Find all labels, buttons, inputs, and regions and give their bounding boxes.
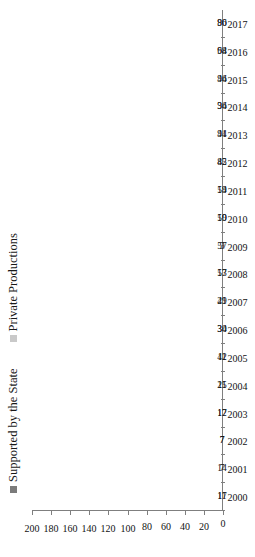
value-axis-labels: 020406080100120140160180200 xyxy=(32,519,223,557)
value-tick xyxy=(32,511,33,515)
category-label: 2013 xyxy=(225,121,253,149)
category-label: 2009 xyxy=(225,233,253,261)
category-label-text: 2011 xyxy=(228,185,248,196)
bar-slot: 1125 xyxy=(32,372,222,400)
value-tick-label: 40 xyxy=(180,521,190,532)
bar-slot: 1459 xyxy=(32,177,222,205)
legend-swatch-state xyxy=(10,486,17,493)
category-label: 2007 xyxy=(225,288,253,316)
category-tick xyxy=(221,287,225,288)
bar-slot: 77 xyxy=(32,428,222,456)
category-label-text: 2013 xyxy=(228,130,248,141)
category-tick xyxy=(221,204,225,205)
value-tick xyxy=(204,511,205,515)
value-tick xyxy=(108,511,109,515)
bar-slot: 2941 xyxy=(32,288,222,316)
legend-item-state: Supported by the State xyxy=(6,368,21,493)
category-label: 2006 xyxy=(225,316,253,344)
category-label: 2011 xyxy=(225,177,253,205)
category-tick xyxy=(221,371,225,372)
bar-group: 1117147771217112511423034294113579571059… xyxy=(32,10,222,511)
chart-stage: Supported by the State Private Productio… xyxy=(0,0,255,557)
legend-label-private: Private Productions xyxy=(6,233,21,331)
category-tick xyxy=(221,260,225,261)
category-tick xyxy=(221,176,225,177)
value-tick-label: 60 xyxy=(161,521,171,532)
category-label-text: 2001 xyxy=(228,464,248,475)
category-tick xyxy=(221,427,225,428)
value-tick-label: 140 xyxy=(82,523,97,534)
bar-slot: 1357 xyxy=(32,261,222,289)
chart-legend: Supported by the State Private Productio… xyxy=(6,233,21,493)
bar-value-label: 7 xyxy=(220,465,225,475)
bar-slot: 6894 xyxy=(32,38,222,66)
category-label-text: 2008 xyxy=(228,269,248,280)
bar-slot: 1142 xyxy=(32,344,222,372)
bar-slot: 4694 xyxy=(32,66,222,94)
category-label-text: 2000 xyxy=(228,492,248,503)
category-label-text: 2010 xyxy=(228,213,248,224)
value-tick xyxy=(51,511,52,515)
category-label: 2016 xyxy=(225,38,253,66)
bar-slot: 4285 xyxy=(32,149,222,177)
value-tick-label: 200 xyxy=(25,523,40,534)
category-tick xyxy=(221,315,225,316)
bar-slot: 957 xyxy=(32,233,222,261)
category-label: 2015 xyxy=(225,66,253,94)
category-label-text: 2004 xyxy=(228,380,248,391)
value-axis-ticks xyxy=(32,511,223,519)
value-tick xyxy=(223,511,224,515)
category-tick xyxy=(221,232,225,233)
category-tick xyxy=(221,510,225,511)
bar-slot: 1217 xyxy=(32,400,222,428)
category-label: 2000 xyxy=(225,483,253,511)
plot-area: 1117147771217112511423034294113579571059… xyxy=(32,10,223,511)
category-label: 2002 xyxy=(225,428,253,456)
bar-slot: 1117 xyxy=(32,483,222,511)
value-tick-label: 160 xyxy=(63,523,78,534)
bar-value-label: 7 xyxy=(220,437,225,447)
legend-swatch-private xyxy=(10,335,17,342)
category-label-text: 2012 xyxy=(228,158,248,169)
bar-slot: 3694 xyxy=(32,94,222,122)
category-tick xyxy=(221,148,225,149)
category-tick xyxy=(221,37,225,38)
value-tick xyxy=(70,511,71,515)
category-label-text: 2003 xyxy=(228,408,248,419)
category-label-text: 2016 xyxy=(228,46,248,57)
bar-slot: 8096 xyxy=(32,10,222,38)
value-tick-label: 20 xyxy=(199,521,209,532)
value-tick-label: 100 xyxy=(120,523,135,534)
category-label-text: 2009 xyxy=(228,241,248,252)
value-tick xyxy=(147,511,148,515)
category-tick xyxy=(221,454,225,455)
value-tick xyxy=(128,511,129,515)
value-tick-label: 80 xyxy=(142,521,152,532)
value-tick xyxy=(185,511,186,515)
bar-slot: 4194 xyxy=(32,121,222,149)
category-label: 2008 xyxy=(225,261,253,289)
value-tick-label: 120 xyxy=(101,523,116,534)
category-label: 2005 xyxy=(225,344,253,372)
category-tick xyxy=(221,343,225,344)
category-label: 2014 xyxy=(225,94,253,122)
category-tick xyxy=(221,120,225,121)
category-label: 2001 xyxy=(225,455,253,483)
legend-item-private: Private Productions xyxy=(6,233,21,342)
category-label: 2012 xyxy=(225,149,253,177)
category-label: 2010 xyxy=(225,205,253,233)
bar-slot: 1059 xyxy=(32,205,222,233)
category-tick xyxy=(221,482,225,483)
category-tick xyxy=(221,93,225,94)
category-axis-labels: 2000200120022003200420052006200720082009… xyxy=(225,10,253,511)
category-label-text: 2015 xyxy=(228,74,248,85)
category-label-text: 2007 xyxy=(228,297,248,308)
category-label-text: 2017 xyxy=(228,19,248,30)
category-label: 2004 xyxy=(225,372,253,400)
category-label: 2003 xyxy=(225,400,253,428)
category-label-text: 2014 xyxy=(228,102,248,113)
value-tick-label: 180 xyxy=(44,523,59,534)
value-tick xyxy=(89,511,90,515)
stacked-bar-chart: Supported by the State Private Productio… xyxy=(0,0,255,557)
value-tick-label: 0 xyxy=(221,518,226,529)
